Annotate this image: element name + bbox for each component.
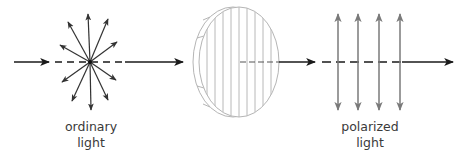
label-line: polarized — [328, 119, 412, 135]
label-line: ordinary — [51, 119, 131, 135]
polarization-diagram: ordinary light polarized light — [0, 0, 467, 157]
label-line: light — [328, 135, 412, 151]
polarizing-filter-icon — [193, 0, 279, 130]
polarized-light-label: polarized light — [328, 119, 412, 151]
ordinary-light-label: ordinary light — [51, 119, 131, 151]
label-line: light — [51, 135, 131, 151]
